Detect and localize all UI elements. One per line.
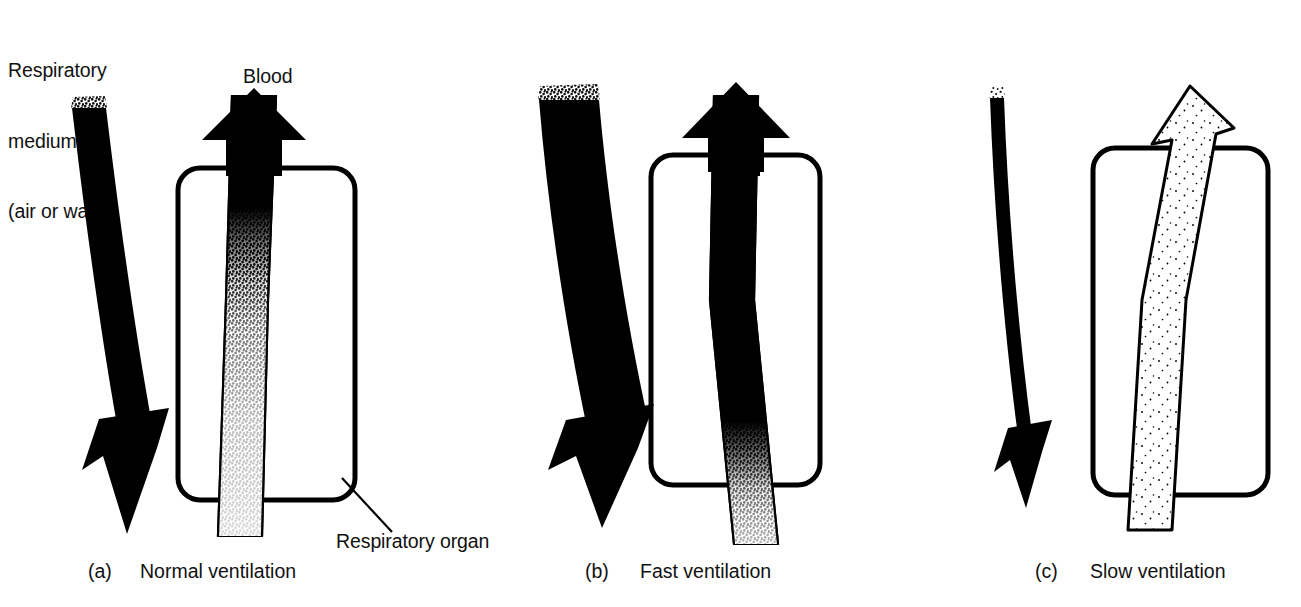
panel-c-blood-arrow bbox=[1128, 86, 1234, 530]
panel-a-organ-leader-line bbox=[342, 478, 392, 532]
panel-b-respiratory-medium-arrow bbox=[538, 84, 654, 528]
panel-a bbox=[71, 88, 392, 546]
panel-c-respiratory-medium-arrow bbox=[989, 86, 1052, 508]
panel-a-blood-arrow bbox=[202, 88, 306, 546]
panel-b bbox=[538, 82, 820, 556]
figure-canvas bbox=[0, 0, 1301, 607]
panel-a-respiratory-medium-arrow bbox=[71, 96, 169, 534]
respiratory-ventilation-figure: Respiratory medium (air or water) Blood … bbox=[0, 0, 1301, 607]
panel-c bbox=[989, 86, 1268, 530]
panel-c-blood-arrow-outline bbox=[1128, 86, 1234, 530]
